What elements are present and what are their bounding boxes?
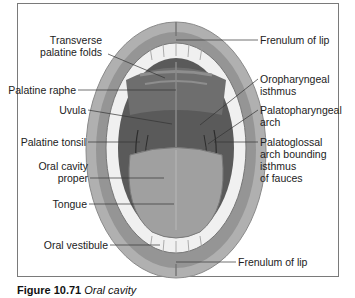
label-line: Oropharyngeal — [260, 73, 329, 85]
label-palatopharyngeal-arch: Palatopharyngeal arch — [260, 104, 342, 128]
label-frenulum-upper: Frenulum of lip — [260, 34, 329, 46]
label-line: Palatoglossal — [260, 136, 327, 148]
figure-caption: Figure 10.71 Oral cavity — [17, 284, 136, 296]
label-tongue: Tongue — [30, 198, 87, 210]
label-oral-vestibule: Oral vestibule — [10, 239, 108, 251]
label-transverse-palatine-folds: Transverse palatine folds — [30, 34, 102, 58]
caption-title: Oral cavity — [84, 284, 136, 296]
label-line: isthmus — [260, 160, 327, 172]
label-palatoglossal-arch: Palatoglossal arch bounding isthmus of f… — [260, 136, 327, 184]
label-palatine-tonsil: Palatine tonsil — [8, 136, 86, 148]
label-oropharyngeal-isthmus: Oropharyngeal isthmus — [260, 73, 329, 97]
label-frenulum-lower: Frenulum of lip — [238, 256, 307, 268]
label-line: Oral cavity — [20, 160, 88, 172]
label-line: isthmus — [260, 85, 329, 97]
label-line: arch — [260, 116, 342, 128]
label-line: Palatopharyngeal — [260, 104, 342, 116]
label-line: palatine folds — [30, 46, 102, 58]
label-oral-cavity-proper: Oral cavity proper — [20, 160, 88, 184]
label-line: Transverse — [30, 34, 102, 46]
label-line: of fauces — [260, 172, 327, 184]
label-line: arch bounding — [260, 148, 327, 160]
caption-number: Figure 10.71 — [17, 284, 81, 296]
label-palatine-raphe: Palatine raphe — [8, 84, 76, 96]
label-line: proper — [20, 172, 88, 184]
label-uvula: Uvula — [40, 104, 86, 116]
